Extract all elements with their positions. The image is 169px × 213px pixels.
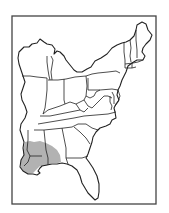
range-map [0, 0, 169, 213]
